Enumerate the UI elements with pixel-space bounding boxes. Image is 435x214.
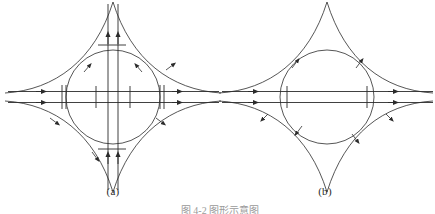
panel-b-horizontal-ticks (287, 86, 367, 108)
panel-label-b: (b) (308, 185, 342, 197)
panel-a-vertical-ticks (98, 45, 126, 149)
panel-a-astroid (5, 2, 221, 192)
panel-a-figure (5, 2, 221, 192)
astroid-arc-br (327, 101, 433, 192)
figure-svg (0, 0, 435, 214)
figure-caption: 图 4-2 图形示意图 (130, 204, 310, 214)
astroid-arc-tl (5, 2, 113, 93)
astroid-arc-br (113, 101, 221, 192)
panel-a-vertical-arrows (108, 34, 118, 164)
astroid-arc-tr (113, 2, 221, 93)
panel-a-horizontal-lines (8, 92, 219, 103)
panel-a-circle (66, 50, 160, 144)
panel-label-a: (a) (96, 185, 130, 197)
figure-plate: (a) (b) 图 4-2 图形示意图 (0, 0, 435, 214)
panel-a-horizontal-ticks (62, 85, 164, 109)
panel-a-vertical-lines (108, 4, 118, 190)
astroid-arc-tr (327, 2, 433, 93)
panel-b-horizontal-lines (222, 92, 433, 103)
panel-b-curve-arrows (262, 60, 392, 142)
panel-b-astroid (219, 2, 433, 192)
panel-b-circle (280, 50, 374, 144)
astroid-arc-bl (5, 101, 113, 192)
panel-b-figure (219, 2, 433, 192)
astroid-arc-tl (219, 2, 327, 93)
astroid-arc-bl (219, 101, 327, 192)
